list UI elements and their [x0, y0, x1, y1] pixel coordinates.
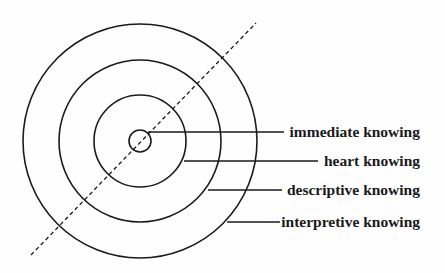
ring-descriptive	[59, 60, 221, 222]
ring-interpretive	[23, 24, 257, 258]
ring-immediate	[129, 130, 151, 152]
label-heart-knowing: heart knowing	[324, 153, 420, 169]
label-immediate-knowing: immediate knowing	[290, 124, 420, 140]
label-descriptive-knowing: descriptive knowing	[287, 182, 420, 198]
dashed-axis	[31, 23, 256, 255]
knowing-diagram: immediate knowing heart knowing descript…	[0, 0, 445, 273]
label-interpretive-knowing: interpretive knowing	[281, 214, 420, 230]
